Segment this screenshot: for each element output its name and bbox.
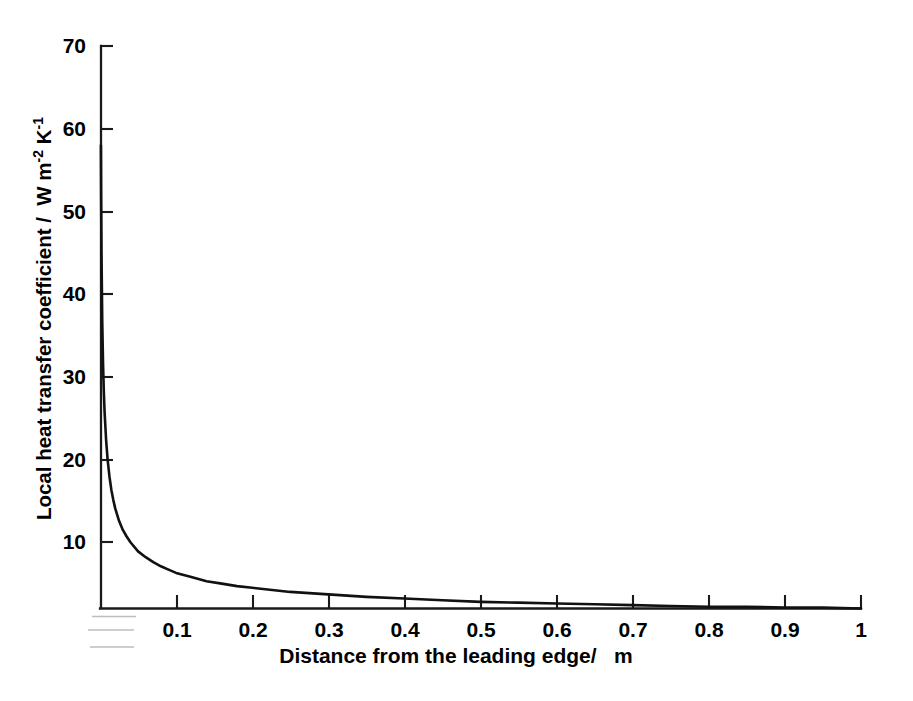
x-tick-label-0-4: 0.4	[390, 618, 419, 642]
x-tick-label-1: 1	[855, 618, 867, 642]
y-axis-title-mid: K	[32, 130, 55, 151]
x-tick-label-0-6: 0.6	[542, 618, 571, 642]
scan-artifacts	[88, 617, 136, 648]
chart-figure: 70 60 50 40 30 20 10 0.1 0.2 0.3 0.4 0.5…	[0, 0, 913, 701]
plot-canvas	[0, 0, 913, 701]
x-tick-label-0-3: 0.3	[314, 618, 343, 642]
x-axis-title: Distance from the leading edge/ m	[279, 644, 633, 668]
axis-spines	[100, 46, 861, 609]
y-axis-title-exponent-2: -1	[30, 117, 46, 129]
x-tick-label-0-7: 0.7	[618, 618, 647, 642]
x-tick-label-0-1: 0.1	[162, 618, 191, 642]
x-tick-label-0-5: 0.5	[466, 618, 495, 642]
x-tick-label-0-2: 0.2	[238, 618, 267, 642]
y-axis-title-exponent-1: -2	[30, 150, 46, 162]
x-tick-label-0-9: 0.9	[770, 618, 799, 642]
y-axis-title-main: Local heat transfer coefficient / W m	[32, 162, 55, 520]
data-series-line	[101, 145, 861, 608]
x-tick-label-0-8: 0.8	[694, 618, 723, 642]
y-axis-title: Local heat transfer coefficient / W m-2 …	[8, 50, 80, 610]
